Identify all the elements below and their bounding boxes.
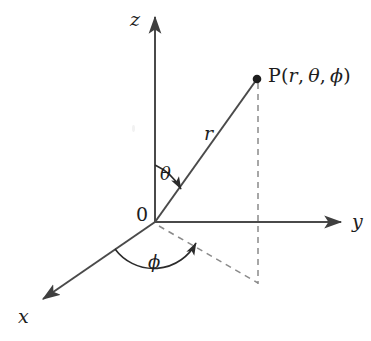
spherical-coordinate-diagram: z y x 0 r θ ϕ P(r, θ, ϕ) — [0, 0, 371, 341]
x-axis-line — [43, 222, 155, 299]
point-p-theta: θ — [308, 64, 320, 86]
projection-line-dashed — [159, 226, 258, 283]
point-p-close-paren: ) — [343, 64, 351, 86]
radius-line — [155, 79, 257, 222]
z-axis-label: z — [130, 10, 140, 29]
origin-label: 0 — [136, 205, 148, 224]
scan-artifact-speck — [132, 125, 135, 132]
point-p-open-paren: ( — [281, 64, 289, 86]
coordinate-axes-svg — [0, 0, 371, 341]
theta-label: θ — [160, 165, 171, 183]
point-p-label: P(r, θ, ϕ) — [268, 66, 351, 85]
point-p-prefix: P — [268, 64, 281, 86]
phi-label: ϕ — [148, 253, 160, 271]
point-p-r: r — [289, 64, 298, 86]
x-axis-label: x — [18, 307, 29, 326]
point-p-phi: ϕ — [330, 64, 343, 86]
point-p-marker — [253, 75, 262, 84]
point-p-comma-2: , — [320, 64, 326, 86]
y-axis-label: y — [352, 212, 363, 231]
point-p-comma-1: , — [298, 64, 304, 86]
radius-label: r — [204, 124, 213, 143]
